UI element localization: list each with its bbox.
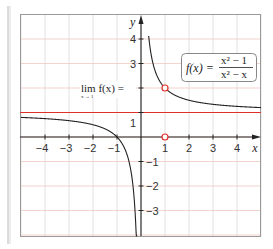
x-tick-label: −4 — [36, 142, 49, 154]
x-tick-label: 3 — [210, 142, 216, 154]
y-axis-label: y — [129, 15, 136, 29]
axes — [20, 15, 261, 236]
function-denominator: x² − x — [221, 68, 248, 80]
function-label-box: f(x) = x² − 1 x² − x — [182, 54, 257, 82]
y-tick-label: −3 — [146, 205, 159, 217]
y-axis-arrow-icon — [139, 15, 144, 24]
x-tick-label: 4 — [234, 142, 240, 154]
y-tick-label: 3 — [130, 58, 136, 70]
x-tick-label: −2 — [84, 142, 97, 154]
x-tick-label: 1 — [162, 142, 168, 154]
y-tick-label: 1 — [130, 117, 136, 129]
y-tick-label: −2 — [146, 180, 159, 192]
y-tick-label: −1 — [146, 156, 159, 168]
limit-subscript: x → 1 — [81, 94, 94, 99]
open-point-marker — [162, 85, 168, 91]
x-tick-label: −3 — [60, 142, 73, 154]
x-tick-label: 2 — [186, 142, 192, 154]
function-lhs: f(x) = — [186, 61, 214, 75]
x-axis-arrow-icon — [252, 135, 261, 140]
x-tick-label: −1 — [108, 142, 121, 154]
y-tick-label: 4 — [130, 33, 136, 45]
open-point-marker — [162, 134, 168, 140]
curve-left-branch — [21, 117, 137, 236]
limit-label: lim f(x) = x → 1 — [80, 81, 136, 99]
function-numerator: x² − 1 — [221, 54, 247, 66]
x-axis-label: x — [251, 141, 258, 155]
function-graph: −4−3−2−11234−3−2−11234xy f(x) = x² − 1 x… — [0, 0, 273, 249]
